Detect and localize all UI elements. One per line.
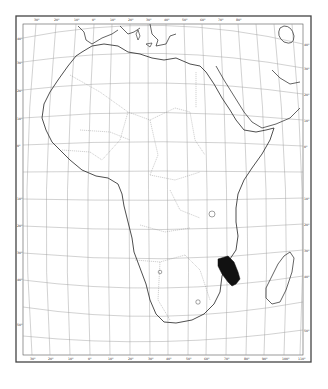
svg-text:80°: 80° xyxy=(244,357,250,361)
svg-text:30°: 30° xyxy=(30,357,36,361)
svg-text:0°: 0° xyxy=(88,357,92,361)
madagascar xyxy=(266,252,294,304)
svg-text:50°: 50° xyxy=(186,357,192,361)
country-borders xyxy=(62,72,210,320)
svg-text:20°: 20° xyxy=(304,93,310,97)
svg-text:50°: 50° xyxy=(17,323,23,327)
graticule xyxy=(23,24,303,355)
svg-text:50°: 50° xyxy=(182,18,188,22)
svg-text:10°: 10° xyxy=(108,357,114,361)
africa-coastline xyxy=(42,44,274,323)
svg-text:20°: 20° xyxy=(128,357,134,361)
svg-text:40°: 40° xyxy=(166,357,172,361)
svg-text:10°: 10° xyxy=(304,119,310,123)
svg-text:30°: 30° xyxy=(34,18,40,22)
svg-text:20°: 20° xyxy=(48,357,54,361)
svg-text:60°: 60° xyxy=(200,18,206,22)
svg-text:0°: 0° xyxy=(17,144,21,148)
svg-text:60°: 60° xyxy=(204,357,210,361)
svg-text:10°: 10° xyxy=(304,197,310,201)
outer-frame xyxy=(16,16,311,362)
svg-text:40°: 40° xyxy=(17,37,23,41)
svg-text:20°: 20° xyxy=(17,89,23,93)
svg-text:30°: 30° xyxy=(17,61,23,65)
africa-map: 30° 20° 10° 0° 10° 20° 30° 40° 50° 60° 7… xyxy=(0,0,328,389)
svg-text:10°: 10° xyxy=(110,18,116,22)
svg-text:30°: 30° xyxy=(304,249,310,253)
svg-text:30°: 30° xyxy=(17,251,23,255)
svg-text:90°: 90° xyxy=(262,357,268,361)
sardinia xyxy=(136,30,140,40)
inner-frame xyxy=(23,24,303,355)
svg-text:70°: 70° xyxy=(218,18,224,22)
svg-text:100°: 100° xyxy=(282,357,290,361)
svg-text:20°: 20° xyxy=(128,18,134,22)
caspian-sea xyxy=(279,26,294,43)
svg-text:40°: 40° xyxy=(17,278,23,282)
svg-text:30°: 30° xyxy=(146,18,152,22)
svg-text:110°: 110° xyxy=(298,357,306,361)
svg-text:10°: 10° xyxy=(17,197,23,201)
svg-text:10°: 10° xyxy=(74,18,80,22)
svg-text:0°: 0° xyxy=(92,18,96,22)
sicily xyxy=(146,43,152,47)
svg-text:20°: 20° xyxy=(17,224,23,228)
svg-text:20°: 20° xyxy=(304,223,310,227)
svg-text:40°: 40° xyxy=(304,43,310,47)
svg-text:20°: 20° xyxy=(54,18,60,22)
svg-text:80°: 80° xyxy=(236,18,242,22)
svg-text:10°: 10° xyxy=(17,117,23,121)
svg-text:50°: 50° xyxy=(304,329,310,333)
svg-text:10°: 10° xyxy=(68,357,74,361)
svg-text:0°: 0° xyxy=(304,145,308,149)
svg-text:70°: 70° xyxy=(224,357,230,361)
svg-text:30°: 30° xyxy=(304,67,310,71)
svg-text:40°: 40° xyxy=(164,18,170,22)
svg-text:30°: 30° xyxy=(148,357,154,361)
svg-text:40°: 40° xyxy=(304,275,310,279)
